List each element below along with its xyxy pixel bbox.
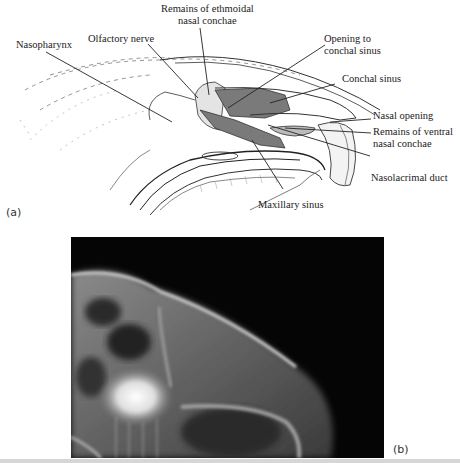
panel-a-label: (a) — [6, 206, 21, 219]
label-ventral-conchae: Remains of ventral nasal conchae — [373, 126, 453, 150]
bottom-border — [0, 459, 460, 463]
label-opening-conchal-sinus: Opening to conchal sinus — [324, 33, 381, 57]
label-maxillary-sinus: Maxillary sinus — [258, 199, 324, 211]
panel-b-label: (b) — [393, 443, 409, 456]
radiograph-rendering — [71, 237, 384, 458]
label-olfactory-nerve: Olfactory nerve — [88, 33, 154, 45]
label-ethmoidal-conchae: Remains of ethmoidal nasal conchae — [161, 3, 254, 27]
figure: Remains of ethmoidal nasal conchae Olfac… — [0, 0, 460, 463]
radiograph-image — [71, 237, 384, 458]
label-conchal-sinus: Conchal sinus — [342, 73, 401, 85]
label-nasopharynx: Nasopharynx — [16, 39, 72, 51]
label-nasolacrimal-duct: Nasolacrimal duct — [371, 172, 448, 184]
label-nasal-opening: Nasal opening — [373, 110, 433, 122]
